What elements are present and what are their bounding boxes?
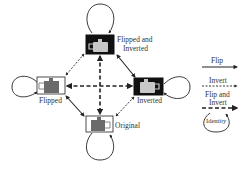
legend-flip-invert-label-2: Invert: [209, 98, 228, 107]
legend: Flip Invert Flip and Invert Identity: [202, 56, 237, 132]
node-label-line1: Flipped and: [117, 35, 153, 44]
loop-top: [87, 4, 114, 33]
loop-bottom: [86, 133, 113, 160]
node-flipped-and-inverted: Flipped and Inverted: [86, 35, 153, 54]
edge-invert-top-left: [66, 54, 84, 75]
edge-invert-right-bottom: [116, 97, 134, 116]
node-inverted: Inverted: [134, 78, 163, 105]
transformation-diagram: Flipped and Inverted Flipped Inverted Or…: [0, 0, 249, 170]
edge-flip-top-right: [117, 55, 135, 77]
node-flipped: Flipped: [37, 77, 65, 105]
flip-invert-edges: [67, 56, 132, 114]
node-label: Flipped: [39, 96, 62, 105]
legend-flip-label: Flip: [211, 56, 223, 65]
node-label: Inverted: [137, 96, 162, 105]
loop-left: [12, 76, 37, 97]
node-label: Original: [115, 121, 140, 130]
legend-identity-label: Identity: [206, 117, 227, 124]
loop-right: [164, 77, 190, 99]
edge-flip-left-bottom: [66, 96, 84, 116]
node-label-line2: Inverted: [123, 44, 148, 53]
node-original: Original: [86, 116, 140, 132]
legend-invert-label: Invert: [209, 76, 228, 85]
